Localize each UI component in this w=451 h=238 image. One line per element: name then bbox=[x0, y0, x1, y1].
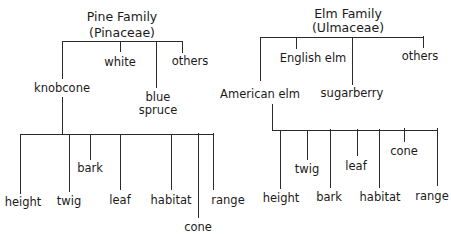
pine-attr-habitat: habitat bbox=[151, 194, 192, 207]
pine-family-title: Pine Family bbox=[87, 9, 158, 24]
elm-attr-cone: cone bbox=[390, 145, 418, 158]
elm-habitat-connector bbox=[379, 129, 380, 188]
pine-attr-height: height bbox=[5, 196, 42, 209]
elm-species-english-elm: English elm bbox=[280, 52, 347, 65]
pine-species-knobcone: knobcone bbox=[34, 82, 90, 95]
pine-attr-bark: bark bbox=[77, 162, 103, 175]
pine-height-connector bbox=[20, 134, 21, 194]
pine-bark-connector bbox=[90, 134, 91, 160]
elm-american-connector bbox=[260, 37, 261, 81]
elm-attribute-line bbox=[272, 130, 438, 131]
pine-branch-line bbox=[62, 41, 183, 42]
elm-american-stem bbox=[272, 104, 273, 131]
elm-species-american-elm: American elm bbox=[220, 88, 300, 101]
elm-cone-connector bbox=[404, 128, 405, 142]
elm-family-subtitle: (Ulmaceae) bbox=[312, 20, 384, 35]
pine-family-subtitle: (Pinaceae) bbox=[89, 25, 155, 40]
elm-sugarberry-connector bbox=[352, 37, 353, 85]
pine-attribute-line bbox=[20, 134, 214, 135]
pine-knobcone-connector bbox=[62, 41, 63, 79]
pine-white-connector bbox=[120, 41, 121, 52]
elm-attr-habitat: habitat bbox=[360, 191, 401, 204]
elm-twig-connector bbox=[307, 130, 308, 160]
pine-attr-twig: twig bbox=[57, 195, 81, 208]
elm-species-others: others bbox=[402, 50, 439, 63]
pine-habitat-connector bbox=[171, 134, 172, 190]
elm-branch-line bbox=[260, 37, 424, 38]
pine-range-connector bbox=[213, 133, 214, 190]
elm-attr-bark: bark bbox=[316, 191, 342, 204]
elm-family-title: Elm Family bbox=[314, 6, 382, 21]
elm-height-connector bbox=[280, 130, 281, 189]
elm-species-sugarberry: sugarberry bbox=[321, 87, 384, 100]
elm-attr-height: height bbox=[263, 192, 300, 205]
elm-attr-twig: twig bbox=[295, 163, 319, 176]
pine-attr-leaf: leaf bbox=[109, 194, 130, 207]
pine-species-white: white bbox=[104, 56, 135, 69]
pine-cone-connector bbox=[198, 133, 199, 218]
pine-knobcone-stem bbox=[62, 97, 63, 135]
elm-bark-connector bbox=[330, 129, 331, 188]
pine-leaf-connector bbox=[120, 134, 121, 190]
pine-species-spruce: spruce bbox=[139, 104, 178, 117]
pine-bluespruce-connector bbox=[156, 41, 157, 88]
elm-attr-range: range bbox=[415, 190, 448, 203]
elm-leaf-connector bbox=[357, 129, 358, 156]
pine-species-others: others bbox=[172, 55, 209, 68]
elm-english-connector bbox=[296, 37, 297, 49]
pine-attr-range: range bbox=[211, 194, 244, 207]
pine-twig-connector bbox=[69, 134, 70, 192]
elm-attr-leaf: leaf bbox=[345, 160, 366, 173]
elm-range-connector bbox=[437, 128, 438, 186]
pine-attr-cone: cone bbox=[184, 221, 212, 234]
elm-others-connector bbox=[423, 36, 424, 48]
pine-others-connector bbox=[182, 41, 183, 53]
